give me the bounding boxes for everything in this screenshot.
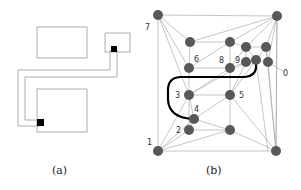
caption-a: (a): [52, 164, 67, 177]
node: [225, 37, 235, 47]
panel-b: 7 6 8 9 0 3 5 4 2 1: [145, 10, 288, 156]
node-6: [184, 63, 194, 73]
label-3: 3: [175, 91, 180, 100]
pin-top-right: [111, 46, 117, 52]
panel-a: [18, 27, 130, 132]
node: [263, 57, 273, 67]
node: [261, 42, 271, 52]
node-5: [225, 90, 235, 100]
label-7: 7: [145, 23, 150, 32]
node-4: [189, 114, 199, 124]
nodes: [153, 10, 282, 156]
node-3: [184, 90, 194, 100]
label-1: 1: [147, 138, 152, 147]
label-8: 8: [219, 56, 224, 65]
pin-bottom: [37, 119, 44, 126]
label-9: 9: [235, 56, 240, 65]
bottom-box: [37, 89, 87, 132]
node-top-right: [272, 11, 282, 21]
label-2: 2: [176, 126, 181, 135]
label-6: 6: [194, 55, 199, 64]
caption-b: (b): [206, 164, 222, 177]
wire-inner: [25, 50, 117, 120]
label-4: 4: [194, 105, 199, 114]
node-labels: 7 6 8 9 0 3 5 4 2 1: [145, 23, 288, 147]
node-2: [184, 125, 194, 135]
node-8: [225, 63, 235, 73]
figure: 7 6 8 9 0 3 5 4 2 1: [0, 0, 301, 190]
node-bottom-right: [271, 146, 281, 156]
node: [251, 55, 261, 65]
node: [225, 125, 235, 135]
node-9: [241, 57, 251, 67]
node: [185, 37, 195, 47]
node-1: [153, 146, 163, 156]
top-left-box: [37, 27, 87, 58]
node-7: [153, 10, 163, 20]
top-right-box: [105, 33, 130, 52]
node: [241, 42, 251, 52]
label-5: 5: [239, 91, 244, 100]
wire-outer: [18, 50, 110, 126]
label-0: 0: [283, 69, 288, 78]
